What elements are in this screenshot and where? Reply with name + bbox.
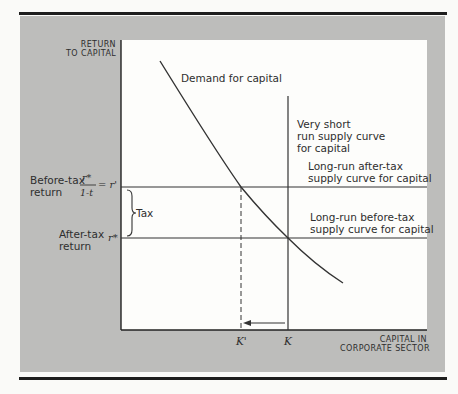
- arrow-head-icon: [243, 320, 251, 326]
- r-prime-label: = r': [98, 179, 117, 191]
- short-run-supply-label: Very short run supply curve for capital: [297, 118, 385, 154]
- before-tax-supply-label: Long-run before-tax supply curve for cap…: [310, 211, 434, 235]
- short-run-label-line1: Very short: [297, 118, 385, 130]
- x-axis-label-line2: CORPORATE SECTOR: [340, 344, 427, 353]
- y-axis-label-line1: RETURN: [66, 40, 116, 49]
- k-label: K: [284, 335, 292, 347]
- k-prime-label: K': [236, 335, 247, 347]
- y-axis-label-line2: TO CAPITAL: [66, 49, 116, 58]
- after-tax-supply-label: Long-run after-tax supply curve for capi…: [308, 160, 432, 184]
- after-tax-return-label: After-tax return: [59, 228, 104, 252]
- x-axis-label-line1: CAPITAL IN: [340, 335, 427, 344]
- short-run-label-line2: run supply curve: [297, 130, 385, 142]
- tax-brace: [127, 190, 136, 236]
- demand-label: Demand for capital: [181, 72, 282, 84]
- short-run-label-line3: for capital: [297, 142, 385, 154]
- fraction-numerator: r*: [82, 172, 91, 184]
- after-tax-return-line2: return: [59, 240, 104, 252]
- tax-label: Tax: [136, 207, 153, 219]
- before-tax-return-line1: Before-tax: [30, 174, 85, 186]
- y-axis-label: RETURN TO CAPITAL: [66, 40, 116, 58]
- after-tax-return-line1: After-tax: [59, 228, 104, 240]
- after-tax-supply-line1: Long-run after-tax: [308, 160, 432, 172]
- x-axis-label: CAPITAL IN CORPORATE SECTOR: [340, 335, 427, 353]
- before-tax-supply-line1: Long-run before-tax: [310, 211, 434, 223]
- r-star-label: r*: [108, 232, 118, 244]
- after-tax-supply-line2: supply curve for capital: [308, 172, 432, 184]
- before-tax-supply-line2: supply curve for capital: [310, 223, 434, 235]
- before-tax-return-line2: return: [30, 186, 85, 198]
- before-tax-return-label: Before-tax return: [30, 174, 85, 198]
- fraction-denominator: 1-t: [80, 187, 93, 199]
